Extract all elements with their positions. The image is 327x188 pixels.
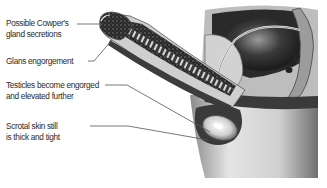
label-testicles: Testicles become engorged and elevated f… [6, 79, 99, 101]
label-text: and elevated further [6, 90, 99, 101]
label-scrotal-skin: Scrotal skin still is thick and tight [6, 120, 60, 142]
anatomy-diagram: Possible Cowper's gland secretions Glans… [0, 0, 327, 188]
label-text: Glans engorgement [6, 55, 73, 66]
label-text: Scrotal skin still [6, 120, 60, 131]
label-cowpers-gland: Possible Cowper's gland secretions [6, 17, 68, 39]
leader-line-glans [88, 40, 112, 61]
leader-line-scrotal [90, 126, 208, 140]
label-glans-engorgement: Glans engorgement [6, 55, 73, 66]
label-text: Testicles become engorged [6, 79, 99, 90]
label-text: is thick and tight [6, 131, 60, 142]
label-text: Possible Cowper's [6, 17, 68, 28]
label-text: gland secretions [6, 28, 68, 39]
